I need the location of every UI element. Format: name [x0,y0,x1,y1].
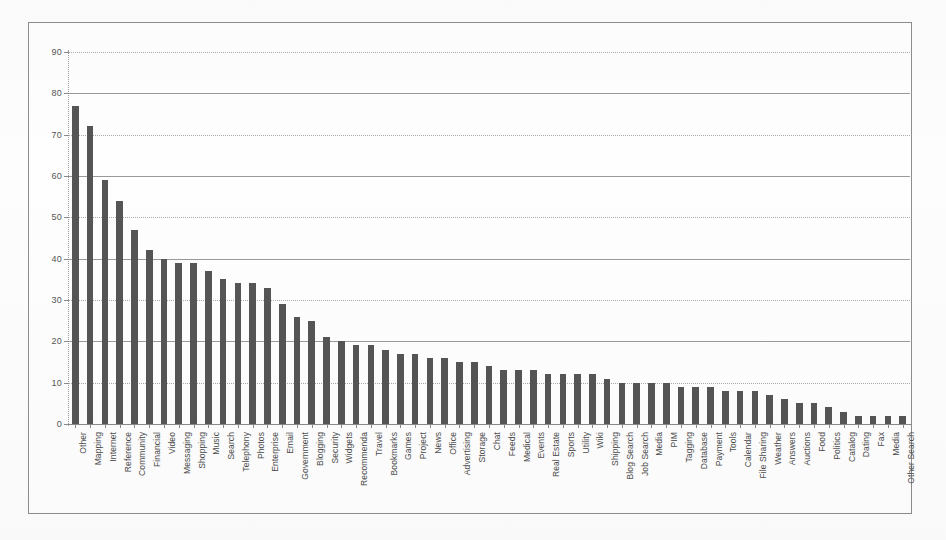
bar [633,383,640,424]
x-axis-tick-label: Mapping [93,432,103,465]
x-axis-tick-mark [371,424,372,428]
x-axis-tick-mark [578,424,579,428]
x-axis-tick-label: Payment [714,432,724,466]
x-axis-tick-label: Catalog [847,432,857,462]
x-axis-tick-label: Bookmarks [389,432,399,475]
x-axis-tick-label: News [433,432,443,454]
bar [308,321,315,424]
x-axis-tick-label: Enterprise [270,432,280,472]
x-axis-tick-label: Video [167,432,177,454]
bar [323,337,330,424]
x-axis-tick-mark [755,424,756,428]
y-axis-tick-label: 80 [52,88,62,98]
x-axis-tick-mark [888,424,889,428]
bar [368,345,375,424]
x-axis-tick-mark [120,424,121,428]
bar [353,345,360,424]
x-axis-tick-label: Media [654,432,664,456]
y-axis-tick-label: 90 [52,47,62,57]
x-axis-tick-mark [533,424,534,428]
bar [840,412,847,424]
x-axis-tick-label: Chat [492,432,502,450]
y-axis-tick-label: 50 [52,212,62,222]
x-axis-tick-label: Advertising [462,432,472,475]
bar [264,288,271,424]
bar [205,271,212,424]
bar [235,283,242,424]
x-axis-tick-label: Photos [256,432,266,459]
bar [811,403,818,424]
y-axis-tick-mark [64,93,69,94]
y-axis-tick-mark [64,383,69,384]
x-axis-tick-mark [223,424,224,428]
x-axis-tick-mark [208,424,209,428]
y-axis-tick-mark [64,217,69,218]
x-axis-tick-mark [903,424,904,428]
x-axis-tick-label: File Sharing [758,432,768,479]
bar [722,391,729,424]
x-axis-tick-mark [548,424,549,428]
x-axis-tick-mark [681,424,682,428]
bar [899,416,906,424]
x-axis-tick-label: Government [300,432,310,480]
x-axis-tick-mark [149,424,150,428]
x-axis-tick-label: Community [137,432,147,476]
bar [855,416,862,424]
bar [737,391,744,424]
x-axis-tick-mark [267,424,268,428]
bar [752,391,759,424]
bar [72,106,79,424]
x-axis-tick-mark [400,424,401,428]
x-axis-tick-mark [327,424,328,428]
bar [500,370,507,424]
bar [279,304,286,424]
x-axis-tick-label: PIM [669,432,679,447]
x-axis-tick-mark [386,424,387,428]
x-axis-tick-mark [873,424,874,428]
bar [294,317,301,424]
x-axis-tick-label: Media [891,432,901,456]
x-axis-tick-mark [489,424,490,428]
y-axis-tick-label: 40 [52,254,62,264]
bar [781,399,788,424]
x-axis-tick-mark [740,424,741,428]
x-axis-tick-mark [459,424,460,428]
x-axis-tick-label: Tagging [684,432,694,462]
bar [707,387,714,424]
x-axis-tick-label: Real Estate [551,432,561,477]
x-axis-tick-mark [474,424,475,428]
x-axis-tick-label: Tools [728,432,738,452]
y-axis-tick-mark [64,300,69,301]
y-axis-tick-mark [64,176,69,177]
x-axis-tick-label: Dating [861,432,871,457]
x-axis-tick-label: Project [418,432,428,459]
y-axis-tick-mark [64,424,69,425]
x-axis-tick-label: Fax [876,432,886,446]
bar [161,259,168,424]
x-axis-tick-label: Widgets [344,432,354,463]
y-axis-tick-labels: 0102030405060708090 [36,0,62,540]
bar [574,374,581,424]
bar [146,250,153,424]
bar [397,354,404,424]
x-axis-tick-label: Sports [566,432,576,457]
bar [678,387,685,424]
x-axis-tick-label: Messaging [182,432,192,474]
x-axis-tick-mark [75,424,76,428]
x-axis-tick-mark [651,424,652,428]
y-axis-tick-label: 30 [52,295,62,305]
x-axis-tick-label: Other [78,432,88,454]
x-axis-tick-label: Search [226,432,236,460]
y-axis-tick-label: 60 [52,171,62,181]
x-axis-tick-mark [592,424,593,428]
bar [456,362,463,424]
bar [545,374,552,424]
x-axis-tick-mark [356,424,357,428]
x-axis-tick-mark [858,424,859,428]
y-axis-tick-label: 10 [52,378,62,388]
bar [766,395,773,424]
x-axis-tick-label: Food [817,432,827,452]
x-axis-tick-mark [134,424,135,428]
x-axis-tick-label: Recommenda [359,432,369,486]
x-axis-tick-label: Blogging [315,432,325,466]
